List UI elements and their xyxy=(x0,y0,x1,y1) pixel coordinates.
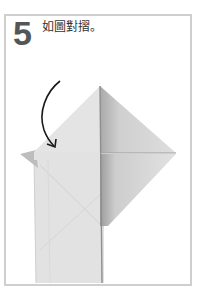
upper-left-flap xyxy=(34,86,100,152)
lower-right-flap xyxy=(100,154,176,226)
paper-strip xyxy=(34,158,104,283)
upper-right-flap xyxy=(100,86,176,153)
origami-diagram xyxy=(0,0,206,290)
